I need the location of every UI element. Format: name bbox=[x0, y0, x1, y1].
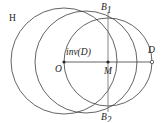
label-o: O bbox=[55, 64, 62, 74]
label-m: M bbox=[103, 66, 113, 76]
geometry-figure: H B1 B2 inv(D) O M D bbox=[0, 0, 163, 122]
label-h: H bbox=[9, 13, 16, 23]
label-b1: B1 bbox=[101, 2, 112, 15]
label-b2: B2 bbox=[101, 112, 112, 122]
label-b1-sub: 1 bbox=[107, 5, 112, 15]
point-m bbox=[106, 60, 109, 63]
point-o bbox=[62, 60, 65, 63]
label-b2-sub: 2 bbox=[107, 115, 112, 123]
point-d bbox=[150, 60, 153, 63]
label-d: D bbox=[147, 45, 155, 55]
label-inv-d: inv(D) bbox=[66, 47, 91, 58]
